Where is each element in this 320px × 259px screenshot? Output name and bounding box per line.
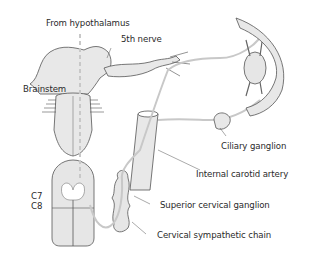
- label-internal-carotid-artery: Internal carotid artery: [196, 170, 288, 179]
- label-hypothalamus: From hypothalamus: [46, 19, 130, 28]
- label-cervical-sympathetic-chain: Cervical sympathetic chain: [157, 231, 271, 240]
- label-c7: C7: [31, 192, 42, 201]
- label-c8: C8: [31, 202, 42, 211]
- label-brainstem: Brainstem: [23, 85, 66, 94]
- ciliary-ganglion: [214, 113, 230, 129]
- label-ciliary-ganglion: Ciliary ganglion: [221, 142, 286, 151]
- fifth-nerve: [104, 56, 180, 77]
- lens: [244, 52, 266, 84]
- label-fifth-nerve: 5th nerve: [121, 35, 162, 44]
- internal-carotid-artery: [130, 114, 158, 190]
- label-superior-cervical-ganglion: Superior cervical ganglion: [160, 201, 270, 210]
